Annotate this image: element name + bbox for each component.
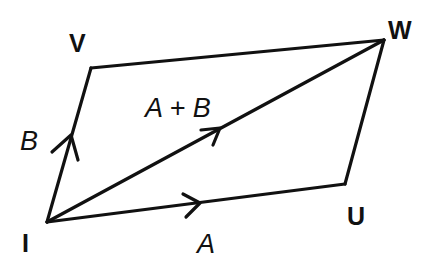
edge-I-U: [47, 184, 345, 222]
vector-label-B: B: [20, 126, 38, 156]
diagram-svg: V W U I A B A + B: [0, 0, 439, 268]
vertex-label-I: I: [22, 229, 29, 257]
vector-label-A: A: [195, 229, 215, 259]
edge-V-I: [47, 68, 91, 222]
vector-label-sum: A + B: [143, 93, 211, 123]
vertex-label-V: V: [69, 29, 86, 57]
vertex-label-U: U: [347, 202, 365, 230]
edge-U-W: [345, 40, 384, 184]
vertex-label-W: W: [388, 16, 412, 44]
vector-addition-diagram: V W U I A B A + B: [0, 0, 439, 268]
